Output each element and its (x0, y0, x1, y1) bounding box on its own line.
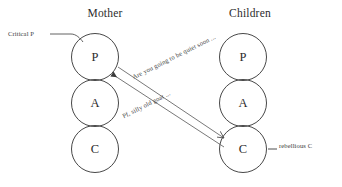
ego-label-mother-p: P (85, 50, 105, 65)
column-heading-children: Children (204, 7, 296, 19)
ego-label-mother-c: C (85, 142, 105, 157)
diagram-graphics (0, 0, 342, 187)
annotation-critical-p: Critical P (8, 30, 34, 37)
column-heading-mother: Mother (59, 7, 151, 19)
ego-label-children-p: P (233, 50, 253, 65)
diagram-canvas: Mother Children P A C P A C Critical P r… (0, 0, 342, 187)
annotation-rebellious-c: rebellious C (279, 142, 312, 149)
ego-label-children-c: C (233, 142, 253, 157)
ego-label-mother-a: A (85, 96, 105, 111)
ego-label-children-a: A (233, 96, 253, 111)
